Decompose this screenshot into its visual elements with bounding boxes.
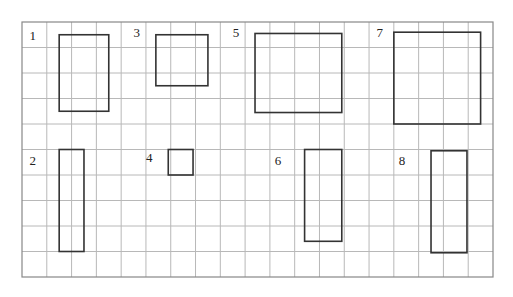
- figure-rectangle: [156, 35, 208, 86]
- figure-label: 1: [29, 28, 36, 43]
- grid-lines: [22, 22, 493, 277]
- figure-5: 5: [233, 25, 342, 112]
- figure-label: 4: [146, 150, 153, 165]
- figure-6: 6: [275, 150, 342, 242]
- figure-rectangle: [168, 150, 193, 176]
- figure-rectangle: [305, 150, 342, 242]
- figure-4: 4: [146, 150, 193, 176]
- figure-label: 6: [275, 153, 282, 168]
- figure-label: 5: [233, 25, 240, 40]
- grid-diagram: 12345678: [0, 0, 513, 297]
- figure-rectangle: [431, 151, 467, 253]
- figure-rectangle: [394, 32, 481, 124]
- figure-label: 8: [399, 153, 406, 168]
- figure-label: 3: [134, 25, 141, 40]
- figure-7: 7: [376, 25, 480, 124]
- figure-8: 8: [399, 151, 467, 253]
- figure-label: 7: [376, 25, 383, 40]
- figure-label: 2: [29, 153, 36, 168]
- figures: 12345678: [29, 25, 480, 252]
